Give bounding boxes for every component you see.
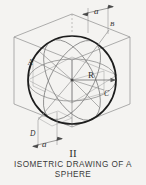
- dim-a-top-arrow-right: [108, 5, 115, 9]
- dim-a-top-label: a: [94, 6, 99, 16]
- label-point-a: A: [27, 58, 33, 67]
- isometric-sphere-drawing: R a a A B C D: [0, 0, 146, 152]
- label-point-c: C: [104, 89, 110, 98]
- caption-line-2: SPHERE: [0, 170, 146, 180]
- figure-page: R a a A B C D II ISOMETRIC DRAWING OF A: [0, 0, 146, 185]
- caption-line-1: ISOMETRIC DRAWING OF A: [0, 160, 146, 170]
- radius-label: R: [88, 70, 94, 80]
- figure-caption: ISOMETRIC DRAWING OF A SPHERE: [0, 160, 146, 180]
- dim-a-bottom-arrow-right: [57, 137, 64, 141]
- dim-a-top-arrow-left: [82, 12, 89, 16]
- label-point-d: D: [29, 129, 36, 138]
- figure-number: II: [0, 147, 146, 159]
- label-point-b: B: [110, 20, 115, 28]
